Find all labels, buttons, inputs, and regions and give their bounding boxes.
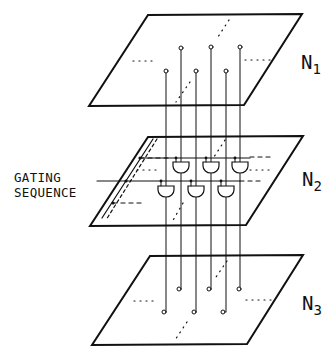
n2-base: N: [302, 168, 313, 190]
gating-label-line2: SEQUENCE: [14, 185, 77, 200]
n1-dots: [133, 20, 270, 102]
n3-base: N: [302, 292, 313, 314]
and-gates: [158, 162, 248, 197]
n2-subscript: 2: [313, 178, 321, 194]
n1-base: N: [301, 51, 312, 73]
n1-subscript: 1: [312, 61, 320, 77]
n1-terminals: [164, 45, 242, 73]
n3-subscript: 3: [313, 302, 321, 318]
gating-sequence-label: GATING SEQUENCE: [14, 170, 77, 200]
n2-gating-bus: [102, 139, 157, 220]
plane-label-n1: N1: [301, 51, 321, 77]
n3-dots: [134, 261, 271, 340]
gating-label-line1: GATING: [14, 170, 77, 185]
n3-terminals: [162, 287, 241, 314]
plane-label-n2: N2: [302, 168, 322, 194]
plane-label-n3: N3: [302, 292, 322, 318]
